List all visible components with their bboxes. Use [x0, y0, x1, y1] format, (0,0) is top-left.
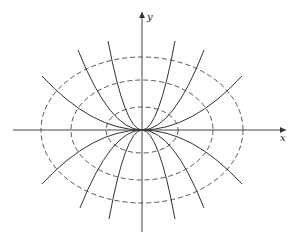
- parabola-curve-11: [142, 130, 204, 208]
- parabola-curve-12: [142, 130, 242, 184]
- parabola-curve-6: [142, 76, 242, 130]
- parabola-curve-4: [142, 41, 175, 130]
- parabola-curve-9: [109, 130, 142, 219]
- parabola-curve-2: [78, 50, 142, 130]
- parabola-curve-3: [108, 41, 142, 130]
- y-axis-label: y: [146, 11, 153, 22]
- parabola-curve-1: [42, 76, 142, 130]
- parabola-curve-7: [42, 130, 142, 184]
- parabola-curve-10: [142, 130, 175, 219]
- orthogonal-trajectories-diagram: x y: [0, 0, 297, 240]
- x-axis-label: x: [280, 132, 286, 143]
- parabola-curve-5: [142, 50, 204, 130]
